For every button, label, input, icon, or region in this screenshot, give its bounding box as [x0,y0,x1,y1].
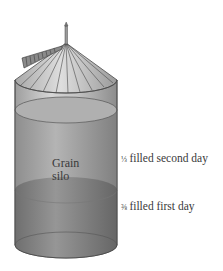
silo-label: Grain silo [52,157,79,183]
first-day-fill-region [15,177,117,258]
grain-silo-diagram [0,0,223,271]
second-day-fraction: ⅓ [121,155,127,164]
first-day-fraction: ⅜ [121,203,127,212]
second-day-annotation: ⅓ filled second day [121,152,208,164]
silo-roof [15,43,117,93]
silo-label-line2: silo [52,170,79,183]
vent-pipe-icon [65,22,69,44]
second-day-text: filled second day [129,152,208,164]
first-day-annotation: ⅜ filled first day [121,200,195,212]
first-day-text: filled first day [129,200,194,212]
